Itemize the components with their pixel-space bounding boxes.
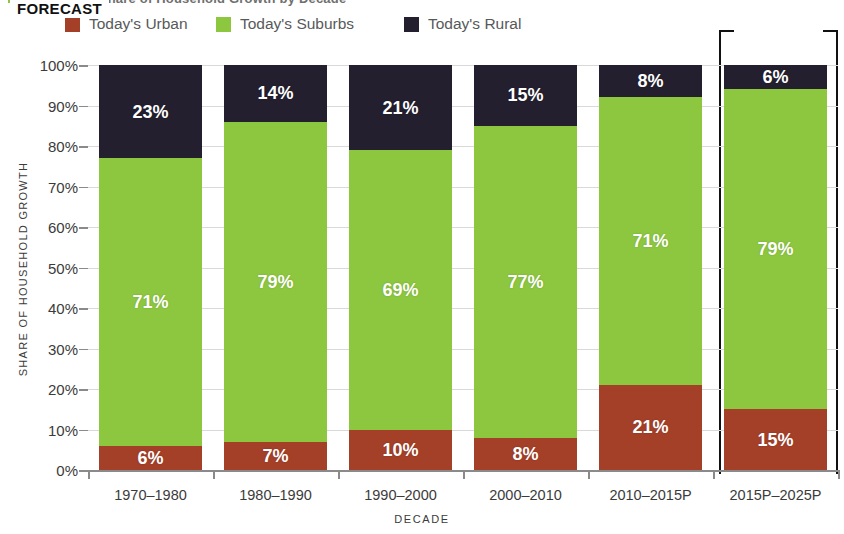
- bar-segment-label: 79%: [257, 273, 293, 291]
- x-tick-mark: [88, 470, 90, 479]
- bar-group[interactable]: 15%79%6%: [724, 65, 827, 470]
- bar-segment-label: 71%: [132, 293, 168, 311]
- bar-segment[interactable]: 21%: [349, 65, 452, 150]
- bar-segment[interactable]: 7%: [224, 442, 327, 470]
- bar-segment[interactable]: 79%: [724, 89, 827, 409]
- bar-segment-label: 15%: [757, 431, 793, 449]
- chart-legend: Today's Urban Today's Suburbs Today's Ru…: [0, 12, 844, 38]
- suburbs-swatch-icon: [216, 17, 231, 32]
- bar-segment[interactable]: 71%: [99, 158, 202, 446]
- legend-item-rural[interactable]: Today's Rural: [404, 12, 521, 36]
- bar-segment-label: 21%: [382, 99, 418, 117]
- x-category-label: 2010–2015P: [588, 487, 713, 503]
- bar-segment[interactable]: 77%: [474, 126, 577, 438]
- legend-label-suburbs: Today's Suburbs: [240, 15, 354, 33]
- bar-segment[interactable]: 8%: [599, 65, 702, 97]
- bar-segment-label: 8%: [637, 72, 663, 90]
- x-category-label: 2000–2010: [463, 487, 588, 503]
- bar-segment[interactable]: 79%: [224, 122, 327, 442]
- bar-group[interactable]: 10%69%21%: [349, 65, 452, 470]
- bar-segment-label: 69%: [382, 281, 418, 299]
- x-tick-mark: [588, 470, 590, 479]
- bar-segment[interactable]: 14%: [224, 65, 327, 122]
- bar-segment[interactable]: 69%: [349, 150, 452, 429]
- bar-group[interactable]: 6%71%23%: [99, 65, 202, 470]
- x-category-label: 1990–2000: [338, 487, 463, 503]
- bar-segment[interactable]: 21%: [599, 385, 702, 470]
- bar-segment[interactable]: 10%: [349, 430, 452, 471]
- bar-segment[interactable]: 23%: [99, 65, 202, 158]
- bar-segment-label: 6%: [762, 68, 788, 86]
- rural-swatch-icon: [404, 17, 419, 32]
- y-axis-title: SHARE OF HOUSEHOLD GROWTH: [17, 79, 29, 459]
- bar-segment-label: 10%: [382, 441, 418, 459]
- bar-segment-label: 7%: [262, 447, 288, 465]
- x-tick-mark: [213, 470, 215, 479]
- x-tick-mark: [463, 470, 465, 479]
- plot-area: 6%71%23%7%79%14%10%69%21%8%77%15%21%71%8…: [88, 65, 838, 470]
- bar-segment-label: 8%: [512, 445, 538, 463]
- bar-segment-label: 23%: [132, 103, 168, 121]
- bar-segment[interactable]: 8%: [474, 438, 577, 470]
- y-tick-mark: [79, 268, 88, 270]
- y-tick-mark: [79, 65, 88, 67]
- bar-segment-label: 79%: [757, 240, 793, 258]
- y-tick-mark: [79, 106, 88, 108]
- legend-item-suburbs[interactable]: Today's Suburbs: [216, 12, 354, 36]
- x-axis-title: DECADE: [0, 513, 844, 525]
- bar-segment-label: 21%: [632, 418, 668, 436]
- bar-group[interactable]: 7%79%14%: [224, 65, 327, 470]
- x-tick-mark: [838, 470, 840, 479]
- forecast-bracket-top-left: [719, 30, 734, 32]
- bar-segment[interactable]: 71%: [599, 97, 702, 385]
- y-tick-mark: [79, 389, 88, 391]
- bar-segment[interactable]: 15%: [724, 409, 827, 470]
- bar-segment-label: 71%: [632, 232, 668, 250]
- bar-segment-label: 77%: [507, 273, 543, 291]
- y-tick-mark: [79, 187, 88, 189]
- x-category-label: 1980–1990: [213, 487, 338, 503]
- y-tick-mark: [79, 430, 88, 432]
- x-tick-mark: [713, 470, 715, 479]
- y-tick-mark: [79, 146, 88, 148]
- y-tick-mark: [79, 308, 88, 310]
- bar-group[interactable]: 21%71%8%: [599, 65, 702, 470]
- bar-segment[interactable]: 6%: [724, 65, 827, 89]
- y-tick-mark: [79, 349, 88, 351]
- bar-segment-label: 6%: [137, 449, 163, 467]
- figure-title-strip: FIGURE 10 Share of Household Growth by D…: [0, 0, 844, 10]
- bar-segment-label: 15%: [507, 86, 543, 104]
- y-tick-label: 0%: [20, 463, 78, 478]
- bar-segment[interactable]: 6%: [99, 446, 202, 470]
- bar-segment[interactable]: 15%: [474, 65, 577, 126]
- y-tick-label: 100%: [20, 58, 78, 73]
- bar-group[interactable]: 8%77%15%: [474, 65, 577, 470]
- y-tick-mark: [79, 470, 88, 472]
- x-category-label: 1970–1980: [88, 487, 213, 503]
- x-category-label: 2015P–2025P: [713, 487, 838, 503]
- y-tick-mark: [79, 227, 88, 229]
- legend-label-rural: Today's Rural: [428, 15, 521, 33]
- x-tick-mark: [338, 470, 340, 479]
- bar-segment-label: 14%: [257, 84, 293, 102]
